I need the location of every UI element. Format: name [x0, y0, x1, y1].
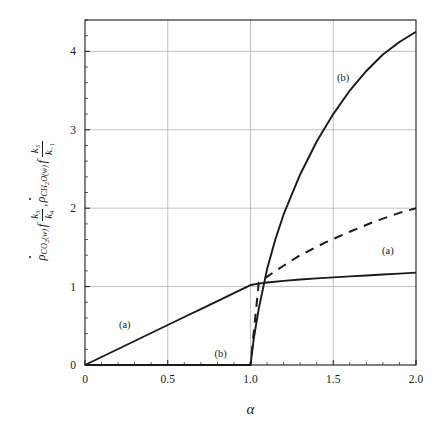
y-tick-label: 0 — [70, 359, 76, 371]
x-tick-label: 1.5 — [326, 373, 341, 385]
curve-label-a-right: (a) — [382, 245, 394, 257]
x-tick-label: 0.5 — [161, 373, 176, 385]
curve-label-a-left: (a) — [119, 319, 131, 331]
figure-container: 00.51.01.52.0 01234 (a)(b)(b)(a) α ρCO2(… — [0, 0, 439, 431]
x-tick-label: 1.0 — [243, 373, 258, 385]
x-tick-label: 0 — [82, 373, 88, 385]
y-tick-label: 3 — [70, 124, 76, 136]
curve-label-b-top: (b) — [337, 72, 350, 84]
y-tick-label: 4 — [70, 45, 76, 57]
x-tick-label: 2.0 — [409, 373, 424, 385]
y-tick-label: 1 — [70, 281, 76, 293]
x-axis-title: α — [247, 401, 256, 417]
y-axis-tick-labels: 01234 — [70, 45, 76, 371]
chart-svg: 00.51.01.52.0 01234 (a)(b)(b)(a) α — [0, 0, 439, 431]
curve-label-b-bottom: (b) — [215, 348, 228, 360]
y-tick-label: 2 — [70, 202, 76, 214]
x-axis-tick-labels: 00.51.01.52.0 — [82, 373, 423, 385]
